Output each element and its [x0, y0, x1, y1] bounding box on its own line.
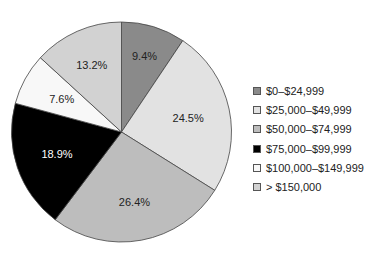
legend-swatch: [253, 183, 261, 191]
slice-label: 26.4%: [119, 196, 150, 208]
pie-chart: 9.4%24.5%26.4%18.9%7.6%13.2%: [0, 0, 240, 261]
legend-item: $50,000–$74,999: [253, 120, 364, 139]
slice-label: 9.4%: [132, 50, 157, 62]
legend-item: $75,000–$99,999: [253, 139, 364, 158]
legend-swatch: [253, 106, 261, 114]
legend-label: $0–$24,999: [266, 85, 324, 97]
legend: $0–$24,999 $25,000–$49,999 $50,000–$74,9…: [253, 81, 364, 197]
slice-label: 18.9%: [41, 148, 72, 160]
slice-label: 24.5%: [173, 112, 204, 124]
slice-label: 7.6%: [49, 93, 74, 105]
legend-item: $100,000–$149,999: [253, 158, 364, 177]
legend-label: $50,000–$74,999: [266, 123, 352, 135]
slice-label: 13.2%: [76, 59, 107, 71]
legend-item: $0–$24,999: [253, 81, 364, 100]
legend-item: > $150,000: [253, 177, 364, 196]
legend-swatch: [253, 164, 261, 172]
legend-label: $100,000–$149,999: [266, 162, 364, 174]
legend-swatch: [253, 125, 261, 133]
legend-label: $25,000–$49,999: [266, 104, 352, 116]
legend-label: $75,000–$99,999: [266, 143, 352, 155]
legend-label: > $150,000: [266, 181, 321, 193]
legend-item: $25,000–$49,999: [253, 100, 364, 119]
legend-swatch: [253, 145, 261, 153]
legend-swatch: [253, 87, 261, 95]
